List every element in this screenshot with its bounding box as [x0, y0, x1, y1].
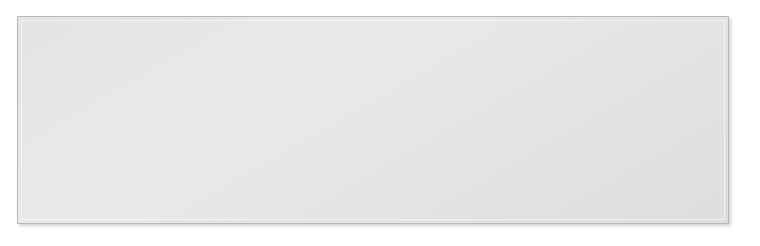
connector-layer [0, 0, 760, 246]
diagram-canvas [0, 0, 760, 246]
